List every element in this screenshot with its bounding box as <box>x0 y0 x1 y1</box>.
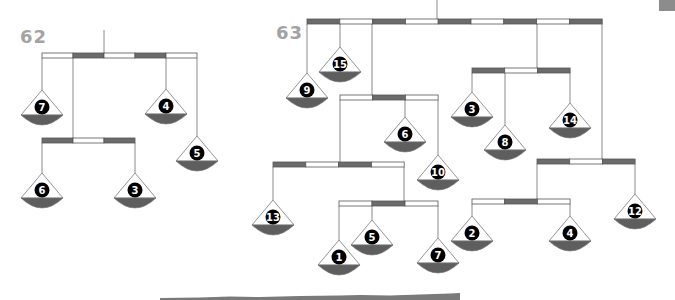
pan-bowl <box>351 245 393 255</box>
pan-bowl <box>21 198 63 208</box>
beam-segment-dark <box>602 159 635 164</box>
beam-segment-dark <box>273 162 306 167</box>
beam-segment-dark <box>307 19 340 24</box>
torn-edge-strip <box>160 292 460 300</box>
weight-number: 7 <box>435 250 442 261</box>
pan-bowl <box>21 115 63 125</box>
weight-pan: 3 <box>114 173 156 208</box>
pan-bowl <box>114 198 156 208</box>
beam <box>42 138 135 143</box>
weight-number: 4 <box>567 228 574 239</box>
weight-number: 3 <box>469 104 476 115</box>
beam-segment-dark <box>438 19 471 24</box>
weight-number: 1 <box>336 252 343 263</box>
beam-segment-light <box>371 162 404 167</box>
weight-pan: 10 <box>417 155 459 190</box>
puzzle-62-mobile: 74563 <box>21 30 218 208</box>
weight-pan: 9 <box>286 73 328 108</box>
balance-mobile-diagram: 74563 9153814610131571224 <box>0 0 675 300</box>
weight-pan: 8 <box>484 125 526 160</box>
beam <box>472 68 570 73</box>
beam-segment-light <box>472 199 505 204</box>
beam-segment-light <box>471 19 504 24</box>
beam-segment-dark <box>339 162 372 167</box>
beam-segment-light <box>42 53 73 58</box>
beam-segment-light <box>405 201 438 206</box>
puzzle-63-mobile: 9153814610131571224 <box>252 0 656 275</box>
beam-segment-dark <box>135 53 166 58</box>
beam-segment-dark <box>505 199 538 204</box>
beam-segment-dark <box>569 19 602 24</box>
beam <box>339 201 438 206</box>
weight-pan: 15 <box>319 47 361 82</box>
weight-number: 13 <box>266 212 280 223</box>
weight-pan: 5 <box>351 220 393 255</box>
beam-segment-dark <box>372 201 405 206</box>
weight-number: 4 <box>163 101 170 112</box>
weight-number: 14 <box>563 115 577 126</box>
beam-segment-dark <box>373 95 406 100</box>
pan-bowl <box>451 241 493 251</box>
pan-bowl <box>417 180 459 190</box>
pan-bowl <box>318 265 360 275</box>
beam-segment-light <box>339 201 372 206</box>
beam <box>472 199 570 204</box>
weight-pan: 7 <box>21 90 63 125</box>
beam-segment-light <box>505 68 538 73</box>
weight-pan: 7 <box>417 238 459 273</box>
weight-pan: 6 <box>384 117 426 152</box>
beam-segment-dark <box>73 53 104 58</box>
beam-segment-dark <box>42 138 73 143</box>
beam-segment-light <box>104 53 135 58</box>
beam-segment-dark <box>373 19 406 24</box>
weight-pan: 3 <box>451 92 493 127</box>
weight-pan: 13 <box>252 200 294 235</box>
beam <box>307 19 602 24</box>
pan-bowl <box>286 98 328 108</box>
beam <box>42 53 197 58</box>
pan-bowl <box>252 225 294 235</box>
pan-bowl <box>614 219 656 229</box>
pan-bowl <box>549 241 591 251</box>
weight-pan: 4 <box>145 89 187 124</box>
weight-number: 5 <box>194 148 201 159</box>
pan-bowl <box>176 161 218 171</box>
weight-number: 12 <box>628 206 642 217</box>
pan-bowl <box>549 128 591 138</box>
beam <box>273 162 404 167</box>
weight-pan: 2 <box>451 216 493 251</box>
beam-segment-dark <box>472 68 505 73</box>
beam-segment-dark <box>537 68 570 73</box>
page-corner-tab <box>659 0 675 11</box>
weight-pan: 4 <box>549 216 591 251</box>
beam-segment-dark <box>537 159 570 164</box>
beam-segment-light <box>570 159 603 164</box>
pan-bowl <box>145 114 187 124</box>
beam <box>340 95 438 100</box>
beam-segment-dark <box>104 138 135 143</box>
pan-bowl <box>484 150 526 160</box>
weight-pan: 12 <box>614 194 656 229</box>
pan-bowl <box>384 142 426 152</box>
weight-number: 8 <box>502 137 509 148</box>
beam-segment-light <box>537 199 570 204</box>
weight-number: 6 <box>402 129 409 140</box>
beam-segment-light <box>340 95 373 100</box>
beam-segment-light <box>340 19 373 24</box>
pan-bowl <box>451 117 493 127</box>
beam-segment-light <box>166 53 197 58</box>
beam <box>537 159 635 164</box>
weight-number: 7 <box>39 102 46 113</box>
beam-segment-light <box>405 95 438 100</box>
weight-number: 5 <box>369 232 376 243</box>
pan-bowl <box>417 263 459 273</box>
weight-pan: 14 <box>549 103 591 138</box>
beam-segment-light <box>306 162 339 167</box>
weight-number: 10 <box>431 167 445 178</box>
beam-segment-dark <box>504 19 537 24</box>
weight-number: 15 <box>333 59 347 70</box>
weight-number: 2 <box>469 228 476 239</box>
beam-segment-light <box>405 19 438 24</box>
weight-number: 3 <box>132 185 139 196</box>
beam-segment-light <box>73 138 104 143</box>
